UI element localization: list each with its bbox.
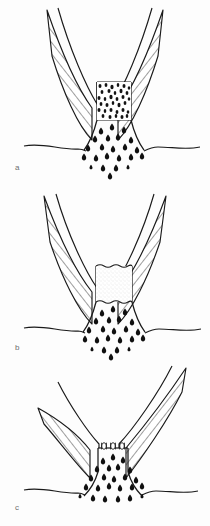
panel-b-pale-plug <box>96 265 132 304</box>
caption-partial <box>0 519 210 526</box>
figure-root: a b c <box>0 0 210 526</box>
panel-c-clips <box>102 443 125 450</box>
anatomical-figure <box>0 0 210 526</box>
panel-label-a: a <box>15 164 19 172</box>
panel-label-c: c <box>15 504 19 512</box>
panel-label-b: b <box>15 344 19 352</box>
panel-a-granular-plug <box>97 82 131 120</box>
